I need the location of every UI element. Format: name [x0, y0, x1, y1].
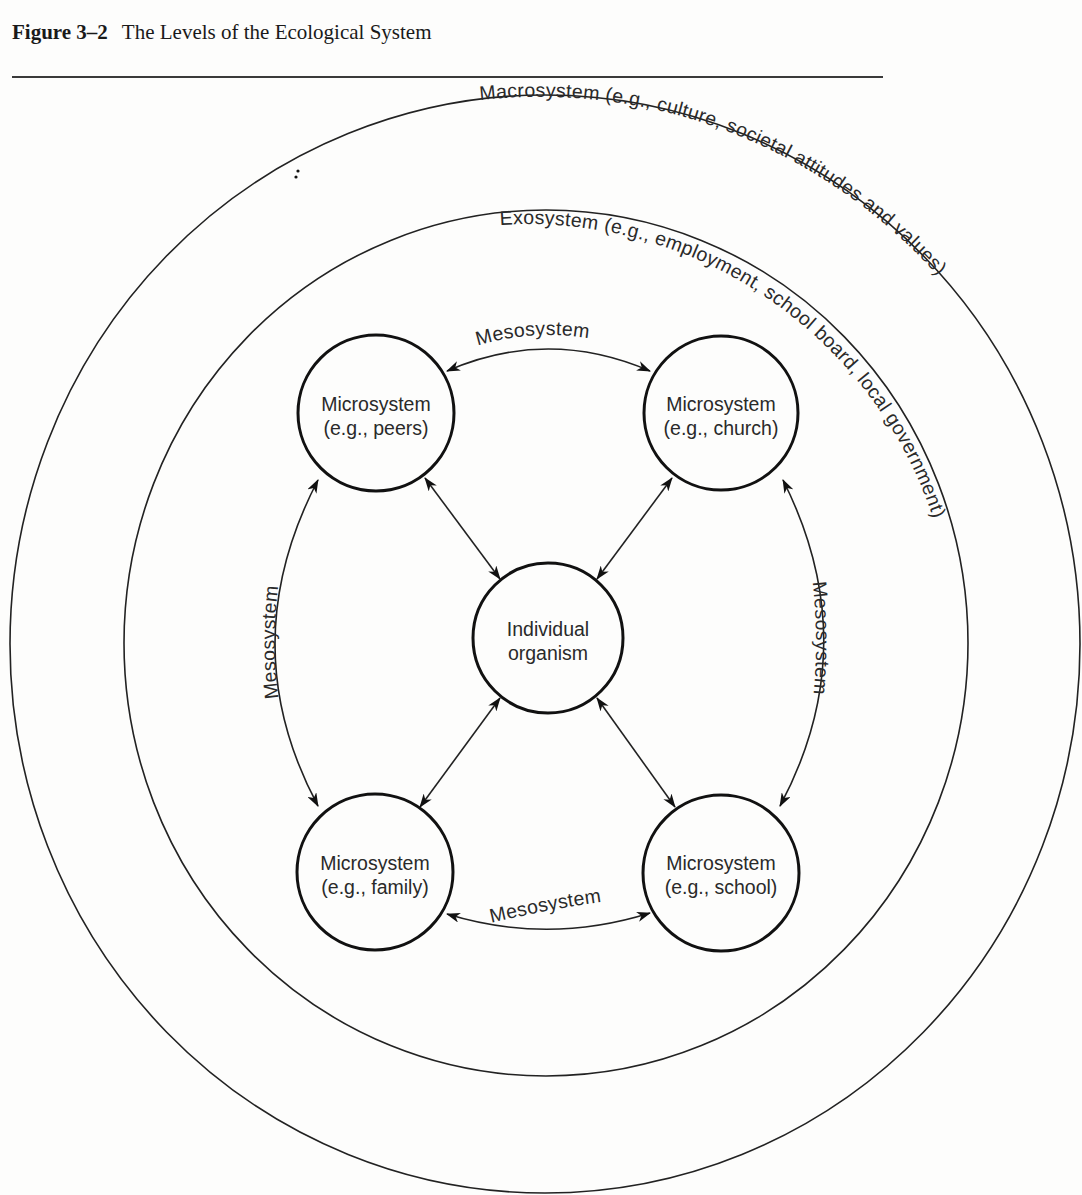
link-school-individual	[597, 698, 675, 807]
microsystem-church-title: Microsystem	[666, 393, 775, 415]
microsystem-church-example: (e.g., church)	[664, 417, 779, 439]
individual-label-line2: organism	[508, 642, 588, 664]
microsystem-school-title: Microsystem	[666, 852, 775, 874]
individual-organism-node: Individual organism	[473, 563, 623, 713]
microsystem-peers-example: (e.g., peers)	[323, 417, 428, 439]
microsystem-peers: Microsystem (e.g., peers)	[298, 335, 454, 491]
microsystem-school: Microsystem (e.g., school)	[643, 795, 799, 951]
microsystem-church: Microsystem (e.g., church)	[644, 336, 798, 490]
mesosystem-label-top: Mesosystem	[473, 317, 591, 349]
individual-label-line1: Individual	[507, 618, 589, 640]
ecological-systems-diagram: Macrosystem (e.g., culture, societal att…	[0, 0, 1082, 1195]
mesosystem-label-left: Mesosystem	[257, 584, 282, 700]
link-church-individual	[597, 478, 672, 579]
mesosystem-label-right: Mesosystem	[809, 580, 834, 695]
link-peers-individual	[425, 478, 500, 579]
mesosystem-arc-bottom	[447, 913, 650, 929]
link-family-individual	[420, 698, 500, 807]
microsystem-family-example: (e.g., family)	[321, 876, 428, 898]
microsystem-family-title: Microsystem	[320, 852, 429, 874]
exosystem-label: Exosystem (e.g., employment, school boar…	[499, 206, 951, 520]
mesosystem-arc-top	[447, 349, 650, 371]
microsystem-family: Microsystem (e.g., family)	[297, 794, 453, 950]
microsystem-peers-title: Microsystem	[321, 393, 430, 415]
mesosystem-label-bottom: Mesosystem	[487, 884, 602, 927]
mesosystem-arc-left	[275, 480, 318, 806]
microsystem-school-example: (e.g., school)	[665, 876, 778, 898]
